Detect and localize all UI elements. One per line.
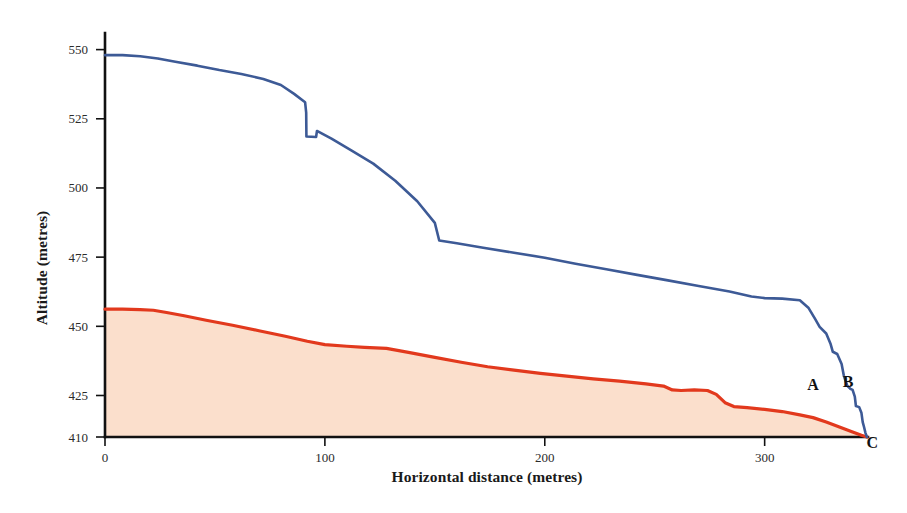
- x-tick-label: 200: [535, 450, 555, 465]
- y-tick-label: 425: [69, 388, 89, 403]
- y-tick-label: 500: [69, 180, 89, 195]
- y-tick-label: 550: [69, 42, 89, 57]
- x-axis-ticks: 0100200300: [102, 437, 775, 465]
- point-label-c: C: [867, 434, 879, 451]
- lower-profile-area-fill: [105, 309, 867, 437]
- point-annotations: ABC: [807, 373, 878, 451]
- y-tick-label: 410: [69, 430, 89, 445]
- point-label-a: A: [807, 376, 819, 393]
- y-tick-label: 450: [69, 319, 89, 334]
- y-tick-label: 475: [69, 250, 89, 265]
- x-axis-title: Horizontal distance (metres): [391, 468, 582, 486]
- x-tick-label: 100: [315, 450, 335, 465]
- y-axis-ticks: 410425450475500525550: [69, 42, 106, 444]
- x-tick-label: 300: [755, 450, 775, 465]
- elevation-profile-chart: 410425450475500525550 0100200300 ABC Hor…: [0, 0, 907, 513]
- chart-canvas: 410425450475500525550 0100200300 ABC Hor…: [0, 0, 907, 513]
- y-axis-title: Altitude (metres): [33, 211, 51, 326]
- y-tick-label: 525: [69, 111, 89, 126]
- x-tick-label: 0: [102, 450, 109, 465]
- point-label-b: B: [843, 373, 854, 390]
